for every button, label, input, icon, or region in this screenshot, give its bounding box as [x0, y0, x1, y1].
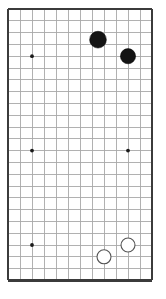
black-stone-2[interactable] [120, 49, 135, 64]
star-top-left-marker [30, 54, 34, 58]
go-board-figure [0, 0, 166, 299]
go-board-canvas[interactable] [0, 0, 166, 299]
go-board-surface[interactable] [0, 0, 166, 299]
star-middle-right-marker [126, 149, 130, 153]
star-bottom-left-marker [30, 243, 34, 247]
black-stone-1[interactable] [90, 31, 107, 48]
stones-group[interactable] [90, 31, 136, 264]
white-stone-1[interactable] [121, 238, 135, 252]
white-stone-2[interactable] [97, 250, 111, 264]
star-middle-left-marker [30, 149, 34, 153]
